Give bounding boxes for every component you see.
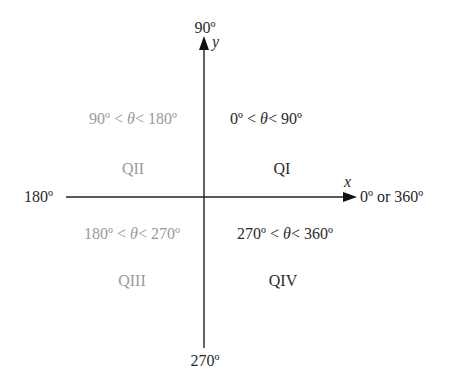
quadrant-diagram: 90º y 180º x 0º or 360º 270º 90º < θ< 18… <box>0 0 452 383</box>
quadrant-i-label: QI <box>274 160 291 178</box>
quadrant-ii-label: QII <box>122 160 144 178</box>
x-axis-left-label: 180º <box>24 188 53 206</box>
y-axis-arrow-icon <box>199 36 209 50</box>
quadrant-iv-range: 270º < θ< 360º <box>237 225 333 243</box>
y-axis-bottom-label: 270º <box>191 352 220 370</box>
quadrant-iii-range: 180º < θ< 270º <box>84 225 180 243</box>
y-axis-name: y <box>212 33 219 51</box>
quadrant-iii-label: QIII <box>118 272 146 290</box>
x-axis-arrow-icon <box>343 192 357 202</box>
quadrant-i-range: 0º < θ< 90º <box>230 110 302 128</box>
x-axis-right-label: 0º or 360º <box>360 188 423 206</box>
quadrant-iv-label: QIV <box>269 272 297 290</box>
x-axis-name: x <box>344 173 351 191</box>
quadrant-ii-range: 90º < θ< 180º <box>89 110 177 128</box>
